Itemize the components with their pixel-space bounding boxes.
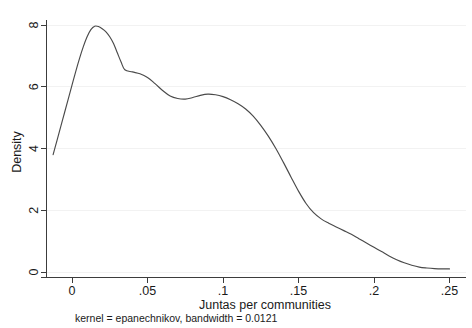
x-axis-title: Juntas per communities [199,298,331,312]
x-axis: 0 .05 .1 .15 .2 .25 Juntas per communiti… [41,278,466,313]
kernel-density-chart: 8 6 4 2 0 Density 0 .05 .1 .15 .2 .25 Ju… [0,0,472,328]
x-tick-label-02: .2 [369,284,379,298]
x-tick-label-01: .1 [218,284,228,298]
x-tick-label-025: .25 [441,284,458,298]
y-axis-title: Density [10,130,24,172]
density-curve [53,26,449,269]
x-tick-label-005: .05 [139,284,156,298]
chart-canvas: 8 6 4 2 0 Density 0 .05 .1 .15 .2 .25 Ju… [0,0,472,328]
y-tick-label-2: 2 [27,207,41,214]
kernel-footnote: kernel = epanechnikov, bandwidth = 0.012… [75,312,278,324]
y-tick-label-6: 6 [27,83,41,90]
gridlines [46,25,466,272]
y-tick-label-8: 8 [27,21,41,28]
y-tick-label-0: 0 [27,268,41,275]
y-axis: 8 6 4 2 0 Density [10,20,47,277]
y-tick-label-4: 4 [27,145,41,152]
x-tick-label-015: .15 [290,284,307,298]
x-tick-label-0: 0 [69,284,76,298]
